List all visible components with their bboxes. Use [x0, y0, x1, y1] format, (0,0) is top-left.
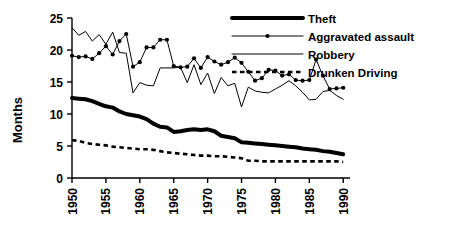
legend-swatch-marker: [265, 34, 269, 38]
x-tick-label: 1970: [201, 188, 215, 215]
series-marker: [90, 57, 94, 61]
y-axis-label-text: Months: [10, 97, 25, 143]
y-tick-label: 10: [50, 108, 64, 122]
y-tick-label: 15: [50, 76, 64, 90]
x-axis-ticks: 195019551960196519701975198019851990: [66, 178, 351, 215]
series-marker: [97, 51, 101, 55]
series-marker: [192, 56, 196, 60]
y-axis-ticks: 0510152025: [50, 12, 72, 186]
series-marker: [226, 60, 230, 64]
series-marker: [239, 61, 243, 65]
x-tick-label: 1955: [99, 188, 113, 215]
series-marker: [219, 63, 223, 67]
series-line: [72, 140, 343, 162]
x-tick-label: 1950: [66, 188, 80, 215]
data-series-group: [70, 28, 345, 162]
series-marker: [124, 32, 128, 36]
series-marker: [199, 66, 203, 70]
series-marker: [138, 60, 142, 64]
series-marker: [233, 56, 237, 60]
x-tick-label: 1980: [269, 188, 283, 215]
y-tick-label: 0: [56, 172, 63, 186]
series-marker: [158, 38, 162, 42]
chart-figure: Months 0510152025 1950195519601965197019…: [0, 0, 452, 242]
series-marker: [206, 55, 210, 59]
legend-label: Theft: [308, 13, 336, 25]
series-marker: [144, 45, 148, 49]
x-tick-label: 1985: [303, 188, 317, 215]
series-marker: [253, 79, 257, 83]
series-marker: [300, 79, 304, 83]
series-marker: [260, 76, 264, 80]
series-marker: [294, 78, 298, 82]
y-tick-label: 20: [50, 44, 64, 58]
series-marker: [212, 59, 216, 63]
series-marker: [280, 74, 284, 78]
series-marker: [341, 86, 345, 90]
series-marker: [117, 39, 121, 43]
x-tick-label: 1975: [235, 188, 249, 215]
series-marker: [307, 78, 311, 82]
x-tick-label: 1960: [133, 188, 147, 215]
series-marker: [185, 65, 189, 69]
y-tick-label: 5: [56, 140, 63, 154]
series-line: [72, 28, 343, 107]
x-tick-label: 1990: [337, 188, 351, 215]
series-marker: [111, 52, 115, 56]
series-marker: [70, 54, 74, 58]
legend-label: Robbery: [308, 49, 355, 61]
series-marker: [83, 54, 87, 58]
series-marker: [131, 65, 135, 69]
y-tick-label: 25: [50, 12, 64, 26]
series-marker: [165, 38, 169, 42]
legend-label: Aggravated assault: [308, 31, 414, 43]
y-axis-label: Months: [10, 97, 25, 143]
chart-legend: TheftAggravated assaultRobberyDrunken Dr…: [232, 13, 414, 79]
series-marker: [77, 55, 81, 59]
series-marker: [334, 86, 338, 90]
legend-label: Drunken Driving: [308, 67, 397, 79]
series-marker: [151, 45, 155, 49]
line-chart: Months 0510152025 1950195519601965197019…: [0, 0, 452, 242]
x-tick-label: 1965: [167, 188, 181, 215]
